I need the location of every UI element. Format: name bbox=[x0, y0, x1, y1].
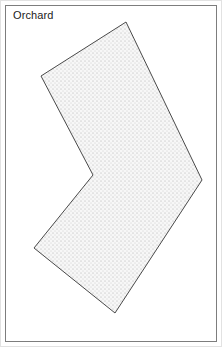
map-title-label: Orchard bbox=[13, 9, 53, 22]
parcel-map bbox=[0, 0, 222, 347]
figure-canvas: Orchard bbox=[0, 0, 222, 347]
orchard-parcel-polygon bbox=[34, 22, 202, 313]
